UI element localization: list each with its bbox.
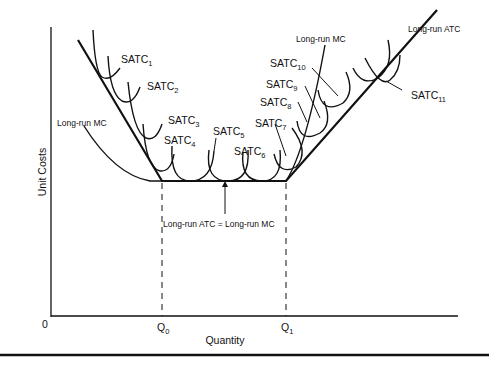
satc-5-label: SATC5	[213, 125, 244, 140]
long-run-mc-right-label: Long-run MC	[296, 34, 346, 44]
quantity-guides	[162, 183, 286, 316]
satc-11-curve	[353, 40, 390, 81]
satc-2-label: SATC2	[147, 80, 178, 95]
long-run-mc-left-label: Long-run MC	[57, 118, 107, 128]
equality-arrow	[222, 181, 228, 214]
q0-label: Q0	[157, 321, 169, 336]
satc-11-label: SATC11	[411, 89, 446, 104]
satc-10-curve	[318, 72, 350, 107]
satc-1-label: SATC1	[121, 53, 152, 68]
satc-5-curve	[172, 146, 214, 181]
cost-curves-diagram: SATC1 SATC2 SATC3 SATC4 SATC5 SATC6 SATC…	[0, 0, 489, 372]
satc-10-label: SATC10	[270, 57, 306, 72]
y-axis-label: Unit Costs	[36, 148, 48, 196]
long-run-mc-left-curve	[84, 126, 162, 181]
satc-11-leader	[386, 81, 402, 90]
satc-8-leader	[298, 102, 307, 122]
q1-label: Q1	[281, 321, 293, 336]
x-axis-label: Quantity	[205, 334, 245, 346]
satc-6-label: SATC6	[234, 145, 265, 160]
equality-label: Long-run ATC = Long-run MC	[163, 219, 275, 229]
satc-9-label: SATC9	[266, 78, 297, 93]
satc-5-leader	[214, 138, 216, 151]
satc-3-label: SATC3	[168, 114, 199, 129]
long-run-atc-label: Long-run ATC	[408, 24, 460, 34]
satc-4-label: SATC4	[164, 134, 195, 149]
satc-8-label: SATC8	[260, 96, 291, 111]
origin-label: 0	[42, 318, 48, 330]
satc-7-label: SATC7	[255, 117, 286, 132]
